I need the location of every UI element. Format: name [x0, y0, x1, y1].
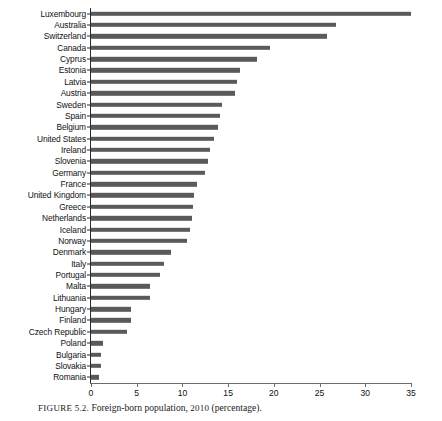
x-axis-tick [320, 383, 321, 387]
bar-label: Bulgaria [56, 350, 86, 359]
bar-row: Lithuania [91, 292, 411, 303]
bar-label: Sweden [56, 100, 86, 109]
bar-label: Hungary [55, 305, 86, 314]
bar [91, 159, 208, 163]
bar-row: Greece [91, 201, 411, 212]
bar [91, 114, 220, 118]
bar [91, 239, 187, 243]
bar-row: Cyprus [91, 53, 411, 64]
bar-row: Slovakia [91, 360, 411, 371]
x-axis-tick [91, 383, 92, 387]
bar-row: Estonia [91, 65, 411, 76]
bar-row: Switzerland [91, 31, 411, 42]
x-axis-tick [228, 383, 229, 387]
caption-text: Foreign-born population, [91, 402, 187, 413]
bar-label: Luxembourg [40, 9, 86, 18]
bar-label: Canada [57, 43, 86, 52]
x-axis-line [90, 383, 411, 384]
bar [91, 34, 327, 38]
bar [91, 284, 150, 288]
bar-label: Finland [59, 316, 86, 325]
bar [91, 330, 127, 334]
caption-suffix: (percentage). [212, 402, 262, 413]
bar-row: Czech Republic [91, 326, 411, 337]
x-axis-tick [365, 383, 366, 387]
bar-label: Germany [52, 168, 86, 177]
bar-label: France [61, 180, 86, 189]
bar [91, 46, 270, 50]
bar [91, 102, 222, 106]
x-axis-tick-label: 20 [269, 388, 279, 398]
bar [91, 273, 160, 277]
bar [91, 375, 99, 379]
bar-row: Italy [91, 258, 411, 269]
bar-row: Australia [91, 19, 411, 30]
bar-label: Ireland [61, 146, 86, 155]
bar [91, 352, 101, 356]
x-axis-tick-label: 35 [406, 388, 416, 398]
bar [91, 216, 192, 220]
bar-label: Italy [71, 259, 86, 268]
bar-row: Austria [91, 88, 411, 99]
bar-row: United Kingdom [91, 190, 411, 201]
bar-label: Netherlands [42, 214, 86, 223]
bar-label: Slovenia [55, 157, 86, 166]
x-axis-tick-label: 10 [178, 388, 188, 398]
caption-year: 2010 [190, 403, 209, 413]
x-axis-tick-label: 25 [315, 388, 325, 398]
caption-prefix: FIGURE [38, 403, 72, 413]
x-axis-tick [274, 383, 275, 387]
bar [91, 136, 214, 140]
x-axis-tick-label: 0 [89, 388, 94, 398]
bar-label: Iceland [60, 225, 86, 234]
bar-label: United States [37, 134, 86, 143]
bar-label: United Kingdom [28, 191, 86, 200]
bar-row: Ireland [91, 144, 411, 155]
bar-row: Hungary [91, 303, 411, 314]
bar-row: Germany [91, 167, 411, 178]
bar-label: Australia [54, 21, 86, 30]
bar-label: Spain [65, 111, 86, 120]
bar [91, 318, 131, 322]
bar [91, 307, 131, 311]
bar-row: Belgium [91, 122, 411, 133]
bar [91, 182, 197, 186]
bar [91, 148, 210, 152]
bar-label: Latvia [64, 77, 86, 86]
bar-label: Denmark [53, 248, 86, 257]
bar [91, 296, 150, 300]
bar-label: Norway [58, 236, 86, 245]
figure-root: LuxembourgAustraliaSwitzerlandCanadaCypr… [0, 0, 442, 421]
bar-row: Malta [91, 281, 411, 292]
bar [91, 250, 171, 254]
bar-row: Denmark [91, 247, 411, 258]
bar [91, 57, 257, 61]
bar [91, 91, 235, 95]
bar [91, 364, 101, 368]
bar [91, 341, 103, 345]
bar-row: United States [91, 133, 411, 144]
bar-row: Bulgaria [91, 349, 411, 360]
x-axis-tick [182, 383, 183, 387]
bar-label: Lithuania [53, 293, 86, 302]
bar-label: Estonia [59, 66, 86, 75]
bar-label: Slovakia [55, 361, 86, 370]
caption-number: 5.2. [75, 403, 89, 413]
bar-label: Poland [61, 339, 86, 348]
bar [91, 227, 190, 231]
bar-row: Poland [91, 338, 411, 349]
bar-label: Malta [66, 282, 86, 291]
bar [91, 193, 194, 197]
x-axis-tick [137, 383, 138, 387]
bar [91, 11, 411, 15]
bar-row: Netherlands [91, 213, 411, 224]
figure-caption: FIGURE 5.2. Foreign-born population, 201… [38, 402, 428, 414]
bar-label: Greece [59, 202, 86, 211]
bar-label: Portugal [56, 271, 86, 280]
x-axis-tick-label: 5 [134, 388, 139, 398]
bar-label: Belgium [56, 123, 86, 132]
bar-row: Sweden [91, 99, 411, 110]
bar-label: Czech Republic [29, 327, 86, 336]
bar [91, 261, 164, 265]
plot-area: LuxembourgAustraliaSwitzerlandCanadaCypr… [91, 8, 411, 383]
